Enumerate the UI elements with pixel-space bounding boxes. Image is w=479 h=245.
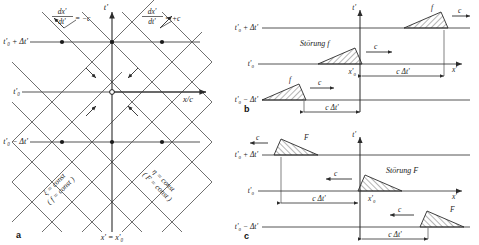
panel-c-distance-label-upper: c Δt': [312, 194, 326, 203]
panel-b-time-label-lower: t'₀ − Δt': [235, 95, 259, 104]
panel-b-origin-label: x'₀: [347, 67, 356, 76]
panel-b-speed-label-lower: c: [318, 78, 322, 87]
panel-c-time-label-middle: t'₀: [248, 186, 255, 195]
panel-c-letter: c: [244, 231, 249, 241]
panel-c-speed-label-middle: c: [334, 169, 338, 178]
panel-a: t' x/c dx' dt' = −c dx' dt' = +c t'₀ + Δ…: [3, 0, 212, 242]
slope-left-denominator: dt': [58, 17, 66, 26]
panel-b-speed-label-middle: c: [374, 42, 378, 51]
panel-c-speed-label-upper: c: [256, 133, 260, 142]
panel-c-pulse-label-lower: F: [449, 205, 455, 214]
slope-right-value: = +c: [165, 14, 181, 23]
panel-a-x-axis-label: x/c: [182, 94, 193, 104]
panel-b-pulse-lower: [262, 84, 306, 100]
panel-b-distance-label-lower: c Δt': [325, 103, 339, 112]
panel-b-x-axis-label: x': [451, 65, 457, 74]
panel-c-distance-label-lower: c Δt': [388, 230, 402, 239]
panel-c-speed-label-lower: c: [398, 205, 402, 214]
panel-a-time-label-middle: t'₀: [13, 87, 20, 96]
panel-b-pulse-label-lower: f: [289, 75, 292, 84]
panel-a-time-label-lower: t'₀ − Δt': [3, 137, 28, 146]
slope-left-numerator: dx': [58, 7, 67, 16]
figure-root: t' x/c dx' dt' = −c dx' dt' = +c t'₀ + Δ…: [0, 0, 479, 245]
panel-b-speed-label-upper: c: [458, 6, 462, 15]
panel-b-pulse-label-upper: f: [431, 3, 434, 12]
panel-b-pulse-middle: [318, 48, 362, 64]
panel-c-pulse-upper: [274, 139, 318, 155]
panel-b-time-label-middle: t'₀: [248, 59, 255, 68]
panel-b-t-axis-label: t': [352, 3, 356, 12]
slope-right-denominator: dt': [148, 17, 156, 26]
panel-c: t'₀ + Δt' t'₀ t'₀ − Δt' t' x' Störung F …: [235, 130, 470, 241]
panel-b-letter: b: [244, 104, 250, 114]
panel-c-time-label-upper: t'₀ + Δt': [235, 150, 259, 159]
panel-a-bottom-label: x' = x'₀: [100, 233, 124, 242]
panel-c-time-label-lower: t'₀ − Δt': [235, 222, 259, 231]
characteristic-direction-arrows: [54, 16, 172, 116]
panel-b: t'₀ + Δt' t'₀ t'₀ − Δt' t' x' Störung f …: [235, 3, 470, 114]
panel-b-distance-label-upper: c Δt': [396, 67, 410, 76]
panel-c-pulse-label-upper: F: [303, 133, 309, 142]
panel-c-origin-label: x'₀: [367, 194, 376, 203]
slope-left-value: = −c: [75, 14, 91, 23]
figure-svg: t' x/c dx' dt' = −c dx' dt' = +c t'₀ + Δ…: [0, 0, 479, 245]
panel-c-x-axis-label: x': [451, 192, 457, 201]
panel-a-t-axis-label: t': [104, 2, 108, 12]
panel-c-pulse-lower: [420, 211, 464, 227]
panel-c-disturbance-label: Störung F: [386, 166, 418, 175]
panel-b-time-label-upper: t'₀ + Δt': [235, 23, 259, 32]
panel-b-disturbance-label: Störung f: [300, 39, 331, 48]
panel-a-letter: a: [16, 230, 22, 240]
panel-b-pulse-upper: [404, 12, 448, 28]
panel-a-time-label-upper: t'₀ + Δt': [3, 37, 28, 46]
slope-right-numerator: dx': [148, 7, 157, 16]
char-right-annotation: η = const ( F = const ): [141, 164, 181, 204]
panel-c-t-axis-label: t': [352, 130, 356, 139]
panel-c-pulse-middle: [358, 175, 402, 191]
slope-right-annotation: dx' dt' = +c: [142, 7, 181, 26]
